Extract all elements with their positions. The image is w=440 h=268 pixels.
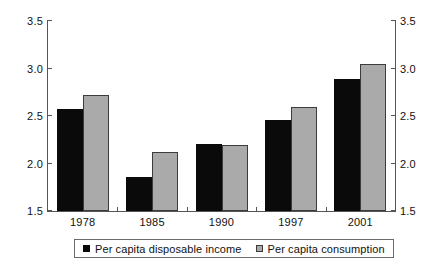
bar-1978-series-0 <box>57 109 83 211</box>
y-axis-label-left: 2.5 <box>27 111 43 122</box>
x-axis-label-1997: 1997 <box>278 216 303 228</box>
y-axis-label-left: 2.0 <box>27 159 43 170</box>
bar-1997-series-0 <box>265 120 291 211</box>
bar-1990-series-0 <box>196 144 222 211</box>
y-axis-tick-mark-left <box>47 68 52 69</box>
y-axis-tick-mark-right <box>391 68 396 69</box>
bar-1985-series-1 <box>152 152 178 211</box>
y-axis-label-right: 2.5 <box>400 111 416 122</box>
y-axis-tick-mark-right <box>391 210 396 211</box>
y-axis-label-right: 2.0 <box>400 159 416 170</box>
bar-1985-series-0 <box>126 177 152 211</box>
legend-entry-0: Per capita disposable income <box>83 243 242 255</box>
x-axis-label-1990: 1990 <box>209 216 234 228</box>
x-axis-tick-mark <box>117 207 118 212</box>
bar-1978-series-1 <box>83 95 109 211</box>
plot-area: 1.51.52.02.02.52.53.03.03.53.51978198519… <box>47 21 396 212</box>
legend-swatch-icon-1 <box>256 245 263 252</box>
legend-entry-1: Per capita consumption <box>256 243 385 255</box>
y-axis-label-right: 3.5 <box>400 16 416 27</box>
chart-legend: Per capita disposable incomePer capita c… <box>74 239 394 258</box>
bar-chart-figure: 1.51.52.02.02.52.53.03.03.53.51978198519… <box>0 0 440 268</box>
legend-swatch-icon-0 <box>83 245 90 252</box>
legend-label-0: Per capita disposable income <box>95 243 242 255</box>
y-axis-label-right: 1.5 <box>400 206 416 217</box>
y-axis-label-left: 1.5 <box>27 206 43 217</box>
bar-1990-series-1 <box>222 145 248 211</box>
x-axis-label-2001: 2001 <box>348 216 373 228</box>
y-axis-tick-mark-left <box>47 163 52 164</box>
x-axis-tick-mark <box>256 207 257 212</box>
y-axis-label-right: 3.0 <box>400 64 416 75</box>
x-axis-tick-mark <box>326 207 327 212</box>
bar-2001-series-0 <box>334 79 360 211</box>
x-axis-label-1985: 1985 <box>139 216 164 228</box>
y-axis-label-left: 3.0 <box>27 64 43 75</box>
x-axis-tick-mark <box>187 207 188 212</box>
x-axis-label-1978: 1978 <box>70 216 95 228</box>
y-axis-tick-mark-right <box>391 115 396 116</box>
y-axis-tick-mark-left <box>47 20 52 21</box>
y-axis-label-left: 3.5 <box>27 16 43 27</box>
y-axis-tick-mark-right <box>391 163 396 164</box>
bar-1997-series-1 <box>291 107 317 211</box>
legend-label-1: Per capita consumption <box>268 243 385 255</box>
bar-2001-series-1 <box>360 64 386 211</box>
y-axis-tick-mark-left <box>47 210 52 211</box>
y-axis-tick-mark-left <box>47 115 52 116</box>
y-axis-tick-mark-right <box>391 20 396 21</box>
